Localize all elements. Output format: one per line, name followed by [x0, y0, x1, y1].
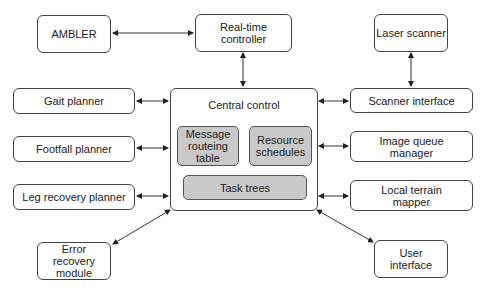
- node-local-terrain-mapper: Local terrain mapper: [350, 180, 473, 211]
- node-label: Real-time controller: [196, 21, 291, 45]
- node-realtime-controller: Real-time controller: [195, 14, 292, 52]
- node-label: Scanner interface: [368, 95, 454, 107]
- node-label: Error recovery module: [49, 243, 99, 279]
- node-footfall-planner: Footfall planner: [13, 136, 135, 162]
- node-gait-planner: Gait planner: [13, 88, 135, 114]
- node-label: Gait planner: [44, 95, 104, 107]
- node-label: Footfall planner: [36, 143, 112, 155]
- node-image-queue-manager: Image queue manager: [350, 131, 473, 162]
- node-error-recovery-module: Error recovery module: [37, 242, 111, 280]
- node-label: Local terrain mapper: [372, 184, 452, 208]
- node-label: Image queue manager: [372, 135, 452, 159]
- node-leg-recovery-planner: Leg recovery planner: [13, 184, 135, 210]
- node-label: Resource schedules: [253, 134, 309, 158]
- node-message-routeing-table: Message routeing table: [177, 126, 239, 166]
- node-user-interface: User interface: [374, 240, 448, 278]
- node-ambler: AMBLER: [37, 15, 111, 53]
- node-label: Leg recovery planner: [22, 191, 125, 203]
- node-laser-scanner: Laser scanner: [374, 14, 448, 52]
- node-label: Laser scanner: [376, 27, 446, 39]
- node-label: Message routeing table: [180, 128, 236, 164]
- node-label: User interface: [384, 247, 439, 271]
- node-scanner-interface: Scanner interface: [350, 88, 473, 113]
- node-resource-schedules: Resource schedules: [249, 126, 312, 166]
- node-task-trees: Task trees: [183, 175, 307, 200]
- node-label: Task trees: [220, 182, 270, 194]
- node-label: AMBLER: [51, 28, 96, 40]
- node-label: Central control: [208, 99, 280, 111]
